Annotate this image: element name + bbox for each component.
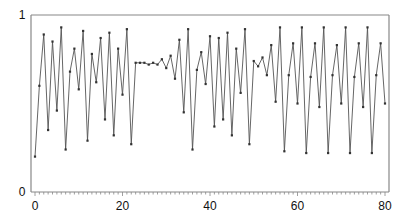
data-point [327, 152, 329, 154]
data-point [257, 65, 259, 67]
data-point [275, 101, 277, 103]
data-point [253, 60, 255, 62]
x-tick-label: 0 [32, 199, 39, 213]
data-point [231, 134, 233, 136]
data-point [244, 28, 246, 30]
data-point [310, 76, 312, 78]
data-point [222, 118, 224, 120]
data-point [358, 42, 360, 44]
data-point [296, 102, 298, 104]
y-tick-label-bottom: 0 [19, 185, 26, 199]
data-point [78, 88, 80, 90]
data-point [156, 63, 158, 65]
data-point [226, 32, 228, 34]
data-point [200, 51, 202, 53]
data-point [95, 81, 97, 83]
data-point [371, 152, 373, 154]
data-point [82, 30, 84, 32]
data-point [314, 42, 316, 44]
data-point [196, 69, 198, 71]
data-point [218, 37, 220, 39]
data-point [60, 26, 62, 28]
x-axis-labels: 0 20 40 60 80 [32, 199, 392, 213]
data-point [104, 118, 106, 120]
data-point [305, 152, 307, 154]
data-point [301, 26, 303, 28]
data-point [283, 150, 285, 152]
data-point [34, 156, 36, 158]
data-point [143, 62, 145, 64]
data-point [51, 40, 53, 42]
data-point [345, 26, 347, 28]
data-point [139, 62, 141, 64]
data-point [121, 94, 123, 96]
data-point [126, 28, 128, 30]
x-tick-label: 80 [378, 199, 392, 213]
data-point [152, 62, 154, 64]
data-point [340, 102, 342, 104]
data-point [73, 48, 75, 50]
data-point-markers [34, 26, 386, 157]
data-point [148, 63, 150, 65]
data-point [113, 134, 115, 136]
data-point [375, 74, 377, 76]
data-point [65, 148, 67, 150]
data-point [240, 92, 242, 94]
data-series-line [35, 27, 385, 156]
data-point [100, 37, 102, 39]
data-point [91, 53, 93, 55]
data-point [266, 74, 268, 76]
data-point [86, 140, 88, 142]
data-point [205, 83, 207, 85]
data-point [191, 148, 193, 150]
data-point [353, 76, 355, 78]
data-point [209, 35, 211, 37]
data-point [108, 32, 110, 34]
data-point [47, 129, 49, 131]
data-point [323, 26, 325, 28]
data-point [130, 143, 132, 145]
data-point [336, 44, 338, 46]
data-point [292, 42, 294, 44]
data-point [349, 152, 351, 154]
data-point [38, 85, 40, 87]
data-point [270, 44, 272, 46]
data-point [69, 71, 71, 73]
data-point [178, 39, 180, 41]
data-point [248, 143, 250, 145]
data-point [161, 58, 163, 60]
data-point [318, 106, 320, 108]
data-point [174, 78, 176, 80]
data-point [235, 48, 237, 50]
x-tick-label: 40 [203, 199, 217, 213]
x-axis-ticks [35, 192, 385, 196]
data-point [213, 125, 215, 127]
data-point [279, 26, 281, 28]
data-point [261, 56, 263, 58]
data-point [288, 74, 290, 76]
x-tick-label: 20 [116, 199, 130, 213]
data-point [362, 106, 364, 108]
data-point [170, 55, 172, 57]
data-point [43, 33, 45, 35]
data-point [380, 42, 382, 44]
data-point [366, 26, 368, 28]
data-point [331, 74, 333, 76]
data-point [384, 102, 386, 104]
y-tick-label-top: 1 [19, 8, 26, 22]
x-tick-label: 60 [291, 199, 305, 213]
data-point [117, 48, 119, 50]
data-point [187, 28, 189, 30]
data-point [56, 109, 58, 111]
line-chart: 1 0 0 20 40 60 80 [0, 0, 414, 224]
data-point [165, 67, 167, 69]
data-point [135, 62, 137, 64]
data-point [183, 111, 185, 113]
